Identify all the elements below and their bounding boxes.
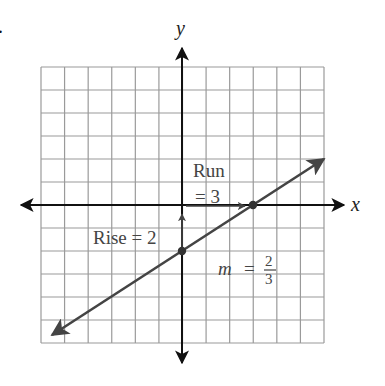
slope-denominator: 3	[265, 271, 273, 287]
y-axis-label: y	[174, 17, 185, 40]
slope-diagram: . x y Run = 3 Rise = 2 m = 2 3	[0, 0, 385, 386]
x-axis-label: x	[350, 193, 360, 215]
rise-label: Rise = 2	[93, 227, 157, 248]
slope-numerator: 2	[265, 253, 273, 269]
slope-m: m	[218, 258, 232, 279]
run-value: = 3	[195, 186, 220, 207]
slope-label: m = 2 3	[218, 253, 276, 287]
point-x-intercept	[249, 201, 257, 209]
point-y-intercept	[178, 247, 186, 255]
run-label: Run	[193, 160, 225, 181]
stray-dot: .	[0, 15, 3, 37]
slope-equals: =	[244, 258, 255, 279]
